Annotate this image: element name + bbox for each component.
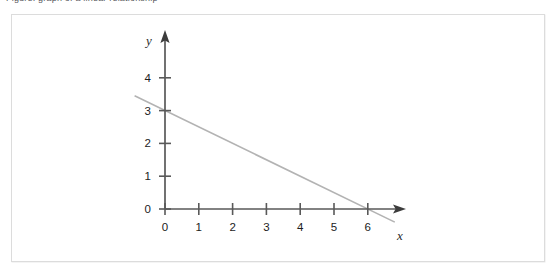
y-tick-labels: 0 1 2 3 4 — [145, 72, 152, 215]
y-tick-label-1: 1 — [145, 170, 151, 182]
x-tick-label-1: 1 — [196, 221, 202, 233]
figure-caption-text: Figure: graph of a linear relationship — [0, 0, 158, 3]
x-axis-label: x — [396, 228, 403, 243]
screenshot-root: Figure: graph of a linear relationship — [0, 0, 559, 271]
figure-border-box: 0 1 2 3 4 0 1 2 3 4 5 6 y x — [11, 14, 545, 262]
x-tick-label-6: 6 — [365, 221, 371, 233]
y-tick-label-2: 2 — [145, 137, 151, 149]
x-tick-label-2: 2 — [229, 221, 235, 233]
y-axis-label: y — [144, 33, 152, 48]
coordinate-plot: 0 1 2 3 4 0 1 2 3 4 5 6 y x — [12, 15, 544, 261]
y-tick-label-0: 0 — [145, 203, 151, 215]
x-tick-label-5: 5 — [331, 221, 337, 233]
x-tick-label-4: 4 — [297, 221, 304, 233]
y-tick-label-3: 3 — [145, 105, 151, 117]
figure-caption: Figure: graph of a linear relationship — [0, 0, 559, 5]
x-tick-labels: 0 1 2 3 4 5 6 — [162, 221, 371, 233]
data-line-series — [135, 96, 395, 222]
x-tick-label-3: 3 — [263, 221, 269, 233]
x-tick-label-0: 0 — [162, 221, 168, 233]
y-tick-label-4: 4 — [145, 72, 152, 84]
